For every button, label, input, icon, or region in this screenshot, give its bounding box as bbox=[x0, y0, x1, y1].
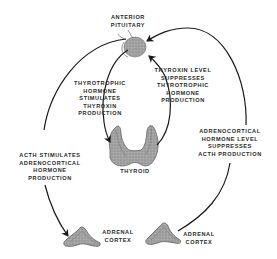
adrenocortical-suppresses-label: ADRENOCORTICAL HORMONE LEVEL SUPPRESSES … bbox=[198, 128, 262, 158]
tsh-line-4: THYROXIN bbox=[74, 103, 126, 111]
adrenal-left-label-line-1: ADRENAL bbox=[102, 229, 134, 237]
acth-line-1: ACTH STIMULATES bbox=[19, 152, 81, 160]
adrenal-cortex-right-icon bbox=[146, 223, 181, 244]
acth-stimulates-label: ACTH STIMULATES ADRENOCORTICAL HORMONE P… bbox=[19, 152, 81, 182]
pituitary-label-line-1: ANTERIOR bbox=[111, 14, 145, 22]
adrenocortical-line-3: SUPPRESSES bbox=[198, 143, 262, 151]
thyroxin-line-1: THYROXIN LEVEL bbox=[155, 67, 212, 75]
tsh-line-2: HORMONE bbox=[74, 88, 126, 96]
adrenocortical-line-4: ACTH PRODUCTION bbox=[198, 151, 262, 159]
thyroxin-line-5: PRODUCTION bbox=[155, 97, 212, 105]
thyroid-gland-icon bbox=[109, 126, 158, 166]
tsh-line-5: PRODUCTION bbox=[74, 110, 126, 118]
acth-line-2: ADRENOCORTICAL bbox=[19, 160, 81, 168]
thyroid-label-line-1: THYROID bbox=[120, 168, 149, 176]
pituitary-label-line-2: PITUITARY bbox=[111, 22, 145, 30]
endocrine-feedback-diagram: ANTERIOR PITUITARY THYROID ADRENAL CORTE… bbox=[0, 0, 277, 259]
thyroxin-line-2: SUPPRESSES bbox=[155, 75, 212, 83]
thyroxin-line-3: THYROTROPHIC bbox=[155, 82, 212, 90]
tsh-stimulates-label: THYROTROPHIC HORMONE STIMULATES THYROXIN… bbox=[74, 80, 126, 118]
adrenal-left-label-line-2: CORTEX bbox=[102, 237, 134, 245]
adrenal-cortex-right-label: ADRENAL CORTEX bbox=[183, 231, 215, 246]
thyroxin-line-4: HORMONE bbox=[155, 90, 212, 98]
acth-line-4: PRODUCTION bbox=[19, 175, 81, 183]
tsh-line-3: STIMULATES bbox=[74, 95, 126, 103]
pituitary-gland-icon bbox=[118, 30, 146, 57]
thyroxin-suppresses-label: THYROXIN LEVEL SUPPRESSES THYROTROPHIC H… bbox=[155, 67, 212, 105]
adrenocortical-line-2: HORMONE LEVEL bbox=[198, 136, 262, 144]
adrenal-right-label-line-2: CORTEX bbox=[183, 239, 215, 247]
adrenocortical-line-1: ADRENOCORTICAL bbox=[198, 128, 262, 136]
thyroid-label: THYROID bbox=[120, 168, 149, 176]
adrenal-cortex-left-label: ADRENAL CORTEX bbox=[102, 229, 134, 244]
tsh-line-1: THYROTROPHIC bbox=[74, 80, 126, 88]
adrenal-cortex-left-icon bbox=[64, 227, 100, 246]
acth-line-3: HORMONE bbox=[19, 167, 81, 175]
adrenal-right-label-line-1: ADRENAL bbox=[183, 231, 215, 239]
pituitary-label: ANTERIOR PITUITARY bbox=[111, 14, 145, 29]
